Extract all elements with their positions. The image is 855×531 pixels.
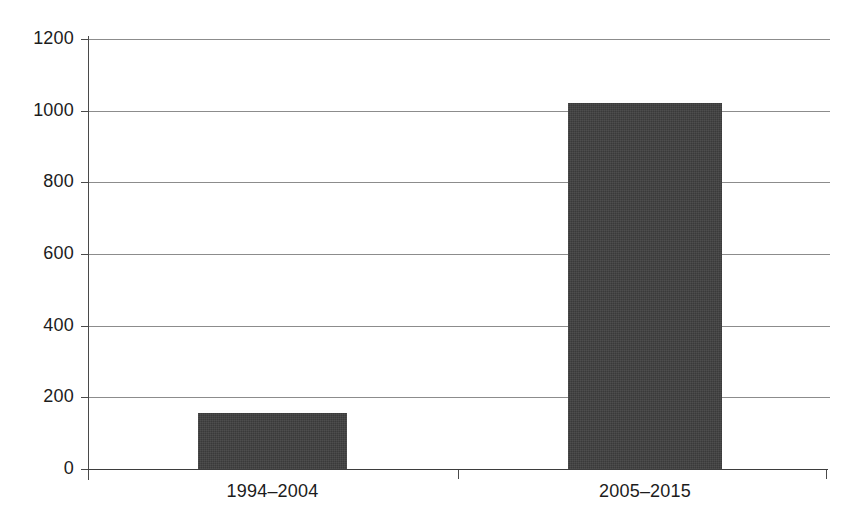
y-axis-label-1000: 1000 <box>33 100 74 121</box>
plot-area <box>88 39 830 469</box>
x-axis-label-2: 2005–2015 <box>545 481 745 502</box>
x-axis-tick-right <box>826 470 827 479</box>
y-axis-label-1200: 1200 <box>33 28 74 49</box>
y-axis-label-800: 800 <box>43 171 74 192</box>
bar-2 <box>568 103 722 469</box>
y-axis-label-600: 600 <box>43 243 74 264</box>
x-axis-label-1: 1994–2004 <box>173 481 373 502</box>
bar-chart: 020040060080010001200 1994–20042005–2015 <box>0 0 855 531</box>
y-axis-label-200: 200 <box>43 386 74 407</box>
y-axis-label-0: 0 <box>64 458 74 479</box>
bar-1 <box>198 413 347 469</box>
x-axis-tick-middle <box>458 470 459 479</box>
y-axis-label-400: 400 <box>43 315 74 336</box>
